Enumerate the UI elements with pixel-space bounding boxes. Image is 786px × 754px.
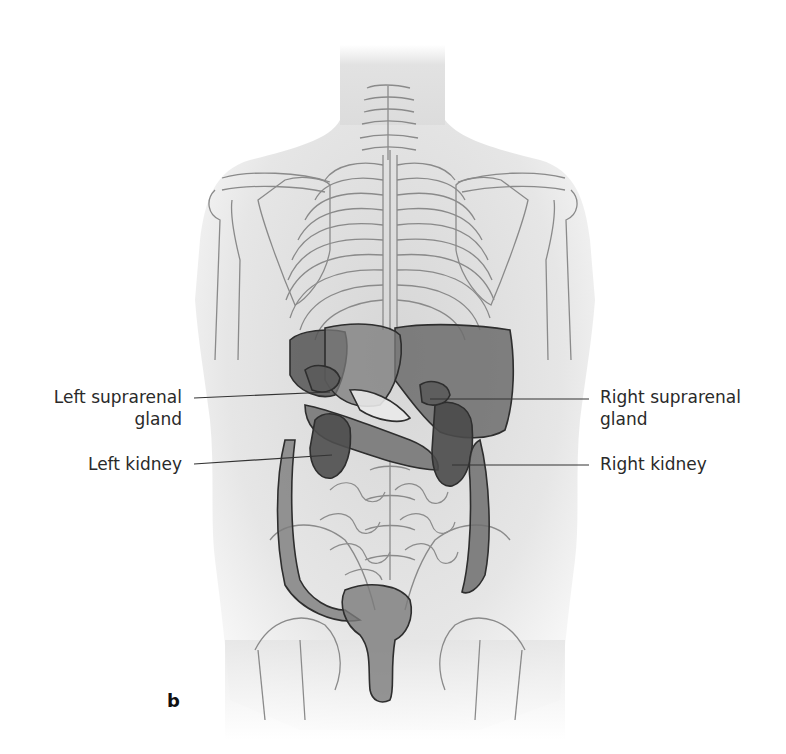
label-text: Right kidney	[600, 453, 707, 475]
label-right-suprarenal-gland: Right suprarenal gland	[600, 386, 741, 430]
label-text-line2: gland	[600, 408, 741, 430]
label-left-kidney: Left kidney	[88, 453, 182, 475]
label-text-line1: Right suprarenal	[600, 386, 741, 408]
label-left-suprarenal-gland: Left suprarenal gland	[54, 386, 182, 430]
label-text-line1: Left suprarenal	[54, 386, 182, 408]
label-right-kidney: Right kidney	[600, 453, 707, 475]
anatomy-figure: Left suprarenal gland Left kidney Right …	[0, 0, 786, 754]
anatomy-illustration	[0, 0, 786, 754]
label-text-line2: gland	[54, 408, 182, 430]
panel-letter: b	[167, 690, 180, 711]
label-text: Left kidney	[88, 453, 182, 475]
